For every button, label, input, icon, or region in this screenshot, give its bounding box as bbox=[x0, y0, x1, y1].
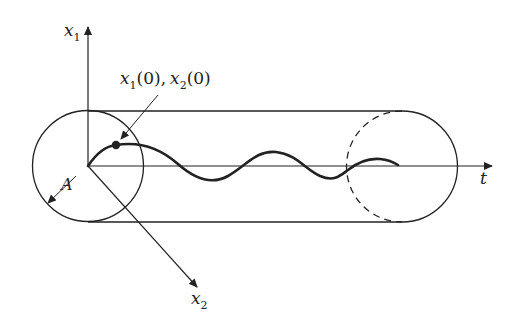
stability-tube-diagram: x1 x1(0),x2(0) A t x2 bbox=[0, 0, 514, 328]
initial-point-label: x1(0),x2(0) bbox=[120, 68, 211, 92]
axes bbox=[48, 27, 492, 287]
initial-point-pointer bbox=[121, 95, 158, 139]
x2-axis bbox=[88, 166, 197, 287]
x1-axis-label: x1 bbox=[64, 20, 81, 44]
initial-point-dot bbox=[112, 141, 120, 149]
radius-label: A bbox=[59, 175, 73, 194]
t-axis-label: t bbox=[480, 168, 487, 188]
x2-axis-label: x2 bbox=[191, 288, 208, 312]
trajectory-curve bbox=[88, 144, 398, 181]
